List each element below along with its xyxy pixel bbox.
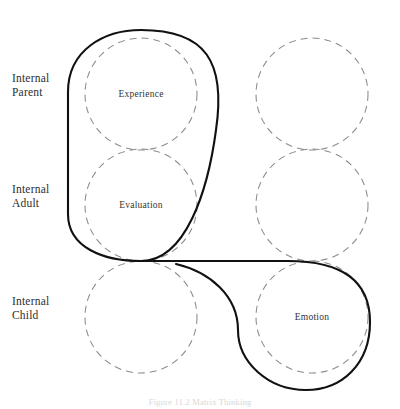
figure-container: Internal Parent Internal Adult Internal …: [0, 0, 400, 409]
row-label-internal-child: Internal Child: [12, 295, 84, 322]
row-label-internal-adult: Internal Adult: [12, 183, 84, 210]
row-label-internal-parent: Internal Parent: [12, 72, 84, 99]
node-circle-left-child: [85, 261, 197, 373]
matrix-flow-path: [68, 30, 370, 390]
node-circle-right-adult: [256, 149, 368, 261]
figure-caption: Figure 11.2 Matrix Thinking: [0, 397, 400, 408]
node-label-emotion: Emotion: [295, 312, 329, 323]
node-label-experience: Experience: [118, 89, 163, 100]
node-label-evaluation: Evaluation: [119, 200, 163, 211]
node-circle-right-parent: [256, 38, 368, 150]
